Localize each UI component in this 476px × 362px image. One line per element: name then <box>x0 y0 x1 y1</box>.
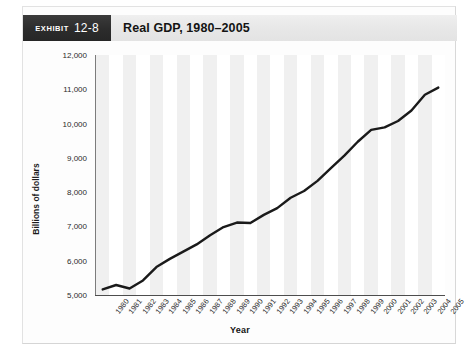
x-tick-label: 1998 <box>355 297 372 316</box>
x-tick-label: 1991 <box>261 297 278 316</box>
y-tick-label: 9,000 <box>67 153 87 162</box>
x-tick-label: 1988 <box>221 297 238 316</box>
exhibit-title: Real GDP, 1980–2005 <box>123 15 250 41</box>
exhibit-badge-label: Exhibit <box>35 24 69 33</box>
y-tick-label: 5,000 <box>67 291 87 300</box>
plot-region <box>96 55 445 295</box>
x-tick-label: 1993 <box>288 297 305 316</box>
exhibit-badge-number: 12-8 <box>74 21 99 35</box>
x-axis-title: Year <box>31 325 449 335</box>
x-tick-label: 1984 <box>167 297 184 316</box>
y-tick-label: 12,000 <box>63 51 87 60</box>
y-tick-label: 10,000 <box>63 119 87 128</box>
exhibit-badge: Exhibit 12-8 <box>23 15 111 41</box>
gdp-line <box>103 88 439 290</box>
x-tick-label: 1986 <box>194 297 211 316</box>
x-tick-label: 2000 <box>382 297 399 316</box>
x-tick-label: 2005 <box>449 297 466 316</box>
exhibit-header: Exhibit 12-8 Real GDP, 1980–2005 <box>23 15 457 41</box>
exhibit-card: Exhibit 12-8 Real GDP, 1980–2005 Billion… <box>22 6 456 344</box>
x-tick-label: 1981 <box>127 297 144 316</box>
y-tick-label: 7,000 <box>67 222 87 231</box>
x-axis-ticks: 1980198119821983198419851986198719881989… <box>96 297 445 327</box>
y-axis-ticks: 5,0006,0007,0008,0009,00010,00011,00012,… <box>45 47 91 299</box>
y-tick-label: 11,000 <box>63 85 87 94</box>
y-tick-label: 8,000 <box>67 188 87 197</box>
y-tick-label: 6,000 <box>67 256 87 265</box>
chart-area: Billions of dollars 5,0006,0007,0008,000… <box>31 47 449 339</box>
gdp-line-series <box>96 55 445 295</box>
